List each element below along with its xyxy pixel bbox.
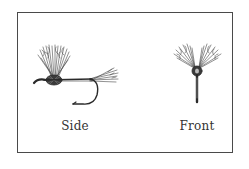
hook-bend [73,79,98,104]
hook-shank [44,79,92,80]
front-view-caption: Front [167,119,227,133]
tail-fibers-icon [90,68,118,82]
side-view-caption: Side [45,119,105,133]
right-wing-icon [199,44,221,68]
front-view-fly [174,44,221,102]
side-view-fly [34,45,118,104]
left-wing-icon [174,44,195,68]
wing-tuft-icon [38,45,70,78]
fly-illustrations [0,0,249,169]
